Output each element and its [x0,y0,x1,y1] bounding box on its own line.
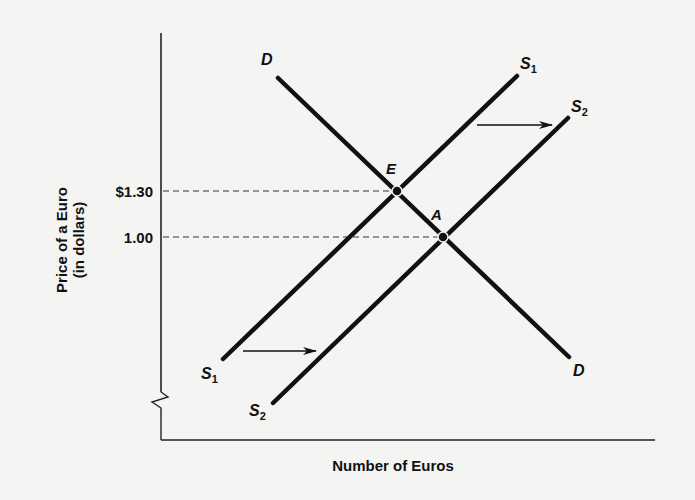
supply-demand-chart: D D S1 S2 S1 S2 E A $1.30 1.00 Price of … [0,0,695,500]
y-axis-label-line2: (in dollars) [70,202,87,279]
label-s2-top: S2 [571,98,588,118]
point-e [392,186,402,196]
supply-curve-s1 [223,76,517,359]
demand-curve-d [278,78,569,357]
y-tick-100: 1.00 [124,229,153,246]
label-point-a: A [430,206,442,223]
axis-break-icon [152,392,168,440]
label-s2-bottom: S2 [249,402,266,422]
y-tick-130: $1.30 [115,183,153,200]
x-axis-label: Number of Euros [332,457,454,474]
supply-curve-s2 [273,118,568,403]
label-s1-top: S1 [520,55,537,75]
point-a [438,232,448,242]
label-s1-bottom: S1 [201,365,218,385]
label-point-e: E [386,160,397,177]
y-axis-label-line1: Price of a Euro [53,187,70,293]
label-d-bottom: D [573,362,585,379]
label-d-top: D [261,51,273,68]
